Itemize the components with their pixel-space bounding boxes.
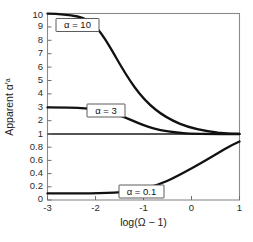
y-tick-label-upper: 5: [38, 74, 43, 85]
apparent-alpha-plot: 10 9 8 7 6 5 4 3 2 1 0.8 0.6 0.4 0.2 0: [0, 0, 253, 242]
y-axis-title-superscript: a: [4, 78, 11, 82]
y-tick-label-upper: 4: [38, 87, 43, 98]
y-tick-label-lower: 0.8: [30, 141, 43, 152]
series-label-alpha-0-1: α = 0.1: [119, 185, 164, 198]
y-tick-label-upper: 10: [32, 9, 43, 20]
y-tick-label-upper: 1: [38, 128, 43, 139]
x-tick-label: 0: [189, 202, 194, 213]
chart-figure: 10 9 8 7 6 5 4 3 2 1 0.8 0.6 0.4 0.2 0: [0, 0, 253, 242]
x-tick-label: -3: [43, 202, 51, 213]
y-tick-label-lower: 0.6: [30, 154, 43, 165]
y-axis-title: Apparent α′a: [3, 78, 15, 136]
y-axis-title-text: Apparent α′: [3, 82, 15, 136]
series-label-text: α = 0.1: [127, 186, 157, 197]
y-tick-label-lower: 0.2: [30, 180, 43, 191]
y-tick-label-lower: 0.4: [30, 167, 43, 178]
x-tick-label: -1: [139, 202, 147, 213]
y-tick-label-upper: 6: [38, 61, 43, 72]
y-tick-label-upper: 8: [38, 34, 43, 45]
y-tick-label-lower: 0: [38, 193, 43, 204]
x-axis-title: log(Ω − 1): [120, 216, 167, 228]
x-tick-label: 1: [237, 202, 242, 213]
series-label-text: α = 10: [64, 19, 91, 30]
series-label-alpha-3: α = 3: [87, 104, 125, 117]
series-label-alpha-10: α = 10: [56, 19, 99, 32]
y-tick-label-upper: 7: [38, 47, 43, 58]
y-tick-label-upper: 9: [38, 20, 43, 31]
x-tick-label: -2: [91, 202, 99, 213]
y-tick-label-upper: 2: [38, 114, 43, 125]
series-label-text: α = 3: [95, 105, 117, 116]
y-tick-label-upper: 3: [38, 101, 43, 112]
